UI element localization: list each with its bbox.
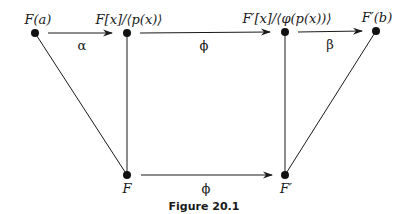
field-extension-diagram: F(a) F[x]/⟨p(x)⟩ F′[x]/⟨φ(p(x))⟩ F′(b) F… [0,0,407,214]
edge-Fa-to-F [35,33,127,175]
node-Fa [31,29,39,37]
node-Fx-quot [123,29,131,37]
label-alpha: α [78,38,87,53]
figure-caption: Figure 20.1 [169,200,240,213]
node-Fp [281,171,289,179]
node-F [123,171,131,179]
edge-Fpb-to-Fp [285,31,376,175]
node-Fpx-quot [281,28,289,36]
arrow-phi-top [140,32,270,33]
label-Fp: F′ [279,181,292,196]
node-Fpb [372,27,380,35]
arrow-beta [298,31,362,32]
label-Fpb: F′(b) [361,10,392,25]
label-F: F [121,181,132,196]
label-phi-top: ϕ [200,38,209,53]
label-phi-bottom: ϕ [202,181,211,196]
label-Fpx-quot: F′[x]/⟨φ(p(x))⟩ [241,11,331,26]
label-Fa: F(a) [24,12,52,27]
label-beta: β [326,37,334,52]
label-Fx-quot: F[x]/⟨p(x)⟩ [95,12,163,27]
